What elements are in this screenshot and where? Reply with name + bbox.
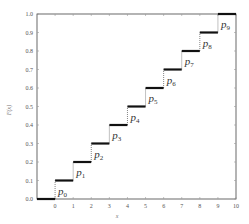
p-label-8: p8 [202,37,213,51]
p-label-4: p4 [129,111,140,125]
x-tick-label: 9 [216,203,219,209]
x-axis-title: x [115,213,119,219]
y-tick-label: 0.1 [26,178,34,184]
x-tick-label: 5 [144,203,147,209]
y-tick-label: 0.5 [26,104,34,110]
y-tick-label: 0.3 [26,141,34,147]
y-tick-label: 0.8 [26,48,34,54]
x-tick-label: 3 [108,203,111,209]
y-tick-label: 1.0 [26,11,34,17]
p-label-3: p3 [111,129,122,143]
y-tick-label: 0.0 [26,196,34,202]
y-tick-label: 0.6 [26,85,34,91]
x-tick-label: 6 [162,203,165,209]
p-label-6: p6 [166,74,177,88]
probability-labels: p0p1p2p3p4p5p6p7p8p9 [57,18,230,199]
y-tick-label: 0.4 [26,122,34,128]
p-label-2: p2 [93,148,104,162]
y-tick-label: 0.7 [26,67,34,73]
p-label-0: p0 [57,185,68,199]
x-tick-label: 10 [233,203,239,209]
y-tick-label: 0.9 [26,30,34,36]
y-axis-title: F(x) [6,105,13,116]
x-tick-label: 8 [198,203,201,209]
step-cdf-chart: 0123456789100.00.10.20.30.40.50.60.70.80… [0,0,249,224]
x-tick-label: 4 [126,203,129,209]
p-label-9: p9 [220,18,231,32]
p-label-5: p5 [148,92,159,106]
p-label-1: p1 [75,166,86,180]
x-tick-label: 7 [180,203,183,209]
x-tick-label: 0 [54,203,57,209]
y-tick-label: 0.2 [26,159,34,165]
x-tick-label: 1 [72,203,75,209]
x-tick-label: 2 [90,203,93,209]
p-label-7: p7 [184,55,195,69]
